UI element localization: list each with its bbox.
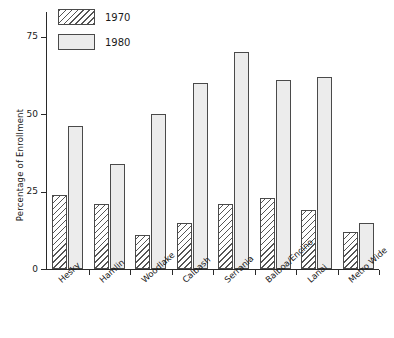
bar-1970-metro-wide xyxy=(343,232,358,269)
legend-swatch-1980-icon xyxy=(58,34,95,50)
legend-label-1980: 1980 xyxy=(105,37,130,48)
bar-1970-serrania xyxy=(218,204,233,269)
bar-1980-balboa-encino xyxy=(276,80,291,269)
bar-1980-lanai xyxy=(317,77,332,269)
y-axis-title: Percentage of Enrollment xyxy=(15,75,25,255)
y-axis-tick-label: 25 xyxy=(0,187,38,196)
x-axis-tick xyxy=(213,270,214,275)
x-axis-tick xyxy=(130,270,131,275)
bar-1970-balboa-encino xyxy=(260,198,275,269)
x-axis-tick xyxy=(89,270,90,275)
y-axis-line xyxy=(46,12,47,270)
bar-1980-serrania xyxy=(234,52,249,269)
bar-1970-hamlin xyxy=(94,204,109,269)
bar-1980-calbash xyxy=(193,83,208,269)
x-axis-tick xyxy=(172,270,173,275)
y-axis-tick xyxy=(41,192,47,193)
bar-1970-hesky xyxy=(52,195,67,269)
bar-1970-woodlake xyxy=(135,235,150,269)
y-axis-tick-label: 75 xyxy=(0,32,38,41)
legend-label-1970: 1970 xyxy=(105,12,130,23)
x-axis-tick xyxy=(379,270,380,275)
bar-chart: Percentage of Enrollment 0255075 HeskyHa… xyxy=(0,0,394,338)
bar-1980-woodlake xyxy=(151,114,166,269)
y-axis-tick xyxy=(41,114,47,115)
y-axis-tick xyxy=(41,37,47,38)
y-axis-tick-label: 0 xyxy=(0,265,38,274)
y-axis-tick xyxy=(41,269,47,270)
legend-swatch-1970-icon xyxy=(58,9,95,25)
bar-1980-hamlin xyxy=(110,164,125,269)
bar-1970-calbash xyxy=(177,223,192,270)
bar-1980-hesky xyxy=(68,126,83,269)
x-axis-tick xyxy=(255,270,256,275)
x-axis-tick xyxy=(296,270,297,275)
x-axis-tick xyxy=(338,270,339,275)
y-axis-tick-label: 50 xyxy=(0,110,38,119)
